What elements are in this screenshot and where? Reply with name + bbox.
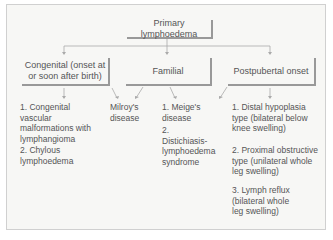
shared-item-milroy: Milroy's disease [110,102,150,123]
familial-item-2: 2. Distichiasis-lymphoedema syndrome [162,125,214,167]
familial-item-1: 1. Meige's disease [162,102,232,123]
category-postpubertal: Postpubertal onset [228,58,316,86]
category-familial: Familial [126,58,212,86]
root-node: Primary lymphoedema [127,20,213,39]
postpubertal-item-2: 2. Proximal obstructive type (unilateral… [232,145,320,177]
category-congenital: Congenital (onset at or soon after birth… [22,58,110,86]
congenital-item-2: 2. Chylous lymphoedema [20,145,110,166]
postpubertal-item-1: 1. Distal hypoplasia type (bilateral bel… [232,102,320,134]
congenital-item-1: 1. Congenital vascular malformations wit… [20,102,100,144]
postpubertal-item-3: 3. Lymph reflux (bilateral whole leg swe… [232,185,298,217]
